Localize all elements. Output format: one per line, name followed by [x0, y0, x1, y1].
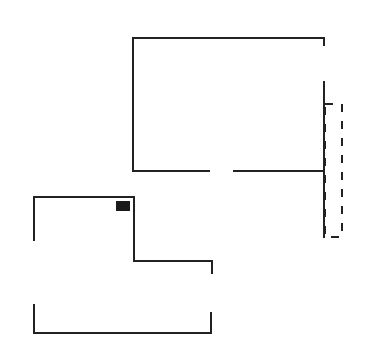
wall-segment	[133, 38, 324, 171]
floor-plan-diagram	[0, 0, 365, 347]
solid-block	[116, 201, 130, 211]
dashed-rectangle	[325, 104, 342, 237]
lower-room-walls	[34, 197, 212, 333]
wall-segment	[34, 305, 211, 333]
dashed-outline	[325, 104, 342, 237]
upper-room-walls	[133, 38, 324, 237]
